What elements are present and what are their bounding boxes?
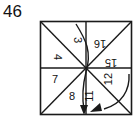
sector-label-15: 15	[105, 57, 117, 69]
sector-label-16: 16	[94, 38, 106, 50]
sector-label-12: 12	[102, 73, 114, 85]
sector-label-7: 7	[52, 73, 58, 85]
sector-label-8: 8	[69, 90, 75, 102]
figure-container: 46 3 16 15 12 11 8 7 4	[0, 0, 139, 119]
sector-label-4: 4	[52, 54, 64, 60]
geometric-diagram: 3 16 15 12 11 8 7 4	[0, 0, 139, 119]
sector-label-3: 3	[72, 37, 84, 43]
sector-label-11: 11	[83, 90, 95, 101]
